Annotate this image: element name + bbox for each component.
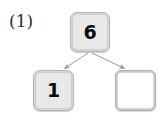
node-root[interactable]: 6	[70, 12, 110, 52]
edge-root-to-left	[65, 53, 89, 69]
edge-root-to-right	[92, 53, 125, 69]
node-root-value: 6	[83, 23, 96, 42]
node-left-child-value: 1	[47, 81, 60, 100]
node-left-child[interactable]: 1	[33, 70, 74, 111]
figure-canvas: (1) 6 1	[0, 0, 158, 123]
node-right-child[interactable]	[115, 70, 156, 111]
node-right-child-fill	[117, 72, 154, 109]
